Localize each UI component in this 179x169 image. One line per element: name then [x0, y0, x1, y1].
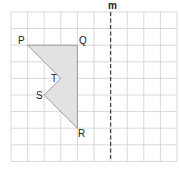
grid-lines	[11, 12, 177, 161]
vertex-label-R: R	[78, 129, 85, 139]
vertex-label-T: T	[51, 74, 57, 84]
grid-svg	[0, 0, 179, 169]
mirror-line-label: m	[108, 1, 117, 11]
vertex-label-Q: Q	[79, 36, 87, 46]
vertex-label-S: S	[36, 91, 43, 101]
vertex-label-P: P	[18, 36, 25, 46]
reflection-grid-diagram: m P Q T S R	[0, 0, 179, 169]
polygon-PQRST	[28, 45, 78, 128]
